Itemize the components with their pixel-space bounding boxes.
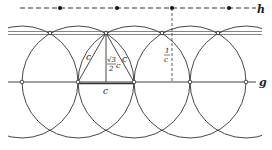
label-base: c [103, 86, 108, 96]
g-node [76, 80, 80, 84]
upper-node [216, 31, 220, 35]
g-node [132, 80, 136, 84]
label-spacing-den: c [164, 56, 168, 64]
label-g: g [259, 76, 267, 89]
label-spacing-num: 1 [165, 47, 169, 55]
upper-node [104, 31, 108, 35]
label-height-den: 2 [108, 65, 114, 73]
label-side-right: c [122, 54, 127, 64]
label-height-c: c [116, 61, 121, 70]
h-dot [227, 6, 231, 10]
label-side-left: c [86, 52, 91, 62]
label-h: h [257, 3, 265, 16]
g-node [20, 80, 24, 84]
g-node [244, 80, 248, 84]
upper-node [160, 31, 164, 35]
h-dot [115, 6, 119, 10]
h-dot [58, 6, 62, 10]
lattice-diagram: h g c c c √3 2 c [0, 0, 272, 150]
g-node [188, 80, 192, 84]
upper-node [48, 31, 52, 35]
